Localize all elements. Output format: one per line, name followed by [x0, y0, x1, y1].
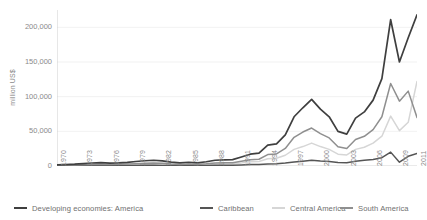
- x-axis-tick-label: 1973: [86, 150, 93, 166]
- gridlines: [57, 27, 417, 166]
- x-axis-tick-label: 1985: [192, 150, 199, 166]
- y-axis-tick-label: 200,000: [6, 22, 52, 31]
- x-axis-tick-labels: 1970197319761979198219851988199119941997…: [57, 166, 417, 196]
- x-axis-tick-label: 2000: [323, 150, 330, 166]
- series-line: [57, 81, 417, 165]
- x-axis-tick-label: 1970: [60, 150, 67, 166]
- x-axis-tick-label: 2006: [376, 150, 383, 166]
- legend-swatch: [340, 207, 353, 210]
- legend-swatch: [272, 207, 285, 210]
- chart-legend: Developing economies: AmericaCaribbeanCe…: [0, 199, 421, 217]
- plot-svg: [57, 10, 417, 166]
- x-axis-tick-label: 1991: [244, 150, 251, 166]
- x-axis-tick-label: 2003: [350, 150, 357, 166]
- legend-label: Central America: [290, 204, 346, 213]
- y-axis-tick-label: 150,000: [6, 57, 52, 66]
- legend-item[interactable]: South America: [340, 204, 409, 213]
- series-lines: [57, 15, 417, 166]
- series-line: [57, 15, 417, 165]
- legend-item[interactable]: Central America: [272, 204, 346, 213]
- x-axis-tick-label: 2009: [402, 150, 409, 166]
- x-axis-tick-label: 1997: [297, 150, 304, 166]
- series-line: [57, 83, 417, 165]
- y-axis-tick-label: 100,000: [6, 92, 52, 101]
- legend-swatch: [200, 207, 213, 210]
- legend-label: South America: [358, 204, 409, 213]
- x-axis-tick-label: 1994: [271, 150, 278, 166]
- x-axis-tick-label: 2011: [420, 151, 427, 166]
- legend-swatch: [14, 207, 27, 210]
- y-axis-tick-labels: 050,000100,000150,000200,000: [0, 0, 52, 175]
- plot-area: [57, 10, 417, 166]
- x-axis-tick-label: 1979: [139, 150, 146, 166]
- y-axis-tick-label: 0: [6, 161, 52, 170]
- x-axis-tick-label: 1988: [218, 150, 225, 166]
- y-axis-tick-label: 50,000: [6, 126, 52, 135]
- x-axis-tick-label: 1982: [165, 150, 172, 166]
- legend-label: Developing economies: America: [32, 204, 143, 213]
- legend-label: Caribbean: [218, 204, 254, 213]
- x-axis-tick-label: 1976: [113, 150, 120, 166]
- legend-item[interactable]: Developing economies: America: [14, 204, 143, 213]
- legend-item[interactable]: Caribbean: [200, 204, 254, 213]
